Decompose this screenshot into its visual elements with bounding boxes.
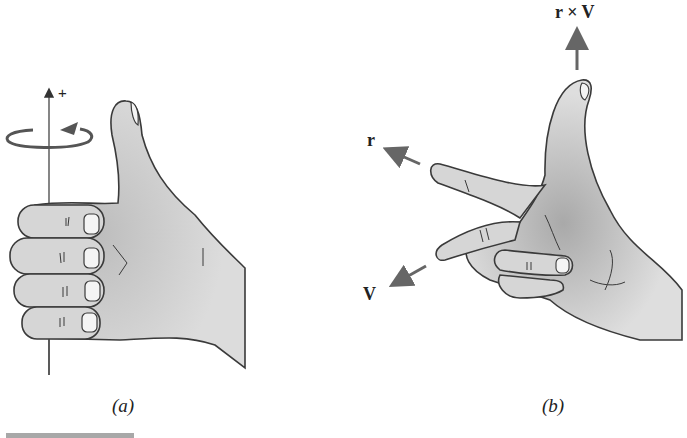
footer-bar bbox=[6, 433, 134, 438]
r-arrow-icon bbox=[388, 150, 420, 164]
right-hand-rule-figure bbox=[0, 0, 687, 438]
r-cross-v-label: r × V bbox=[555, 2, 595, 23]
panel-a-hand bbox=[7, 90, 245, 375]
panel-b-hand bbox=[388, 32, 682, 340]
axis-plus-label: + bbox=[58, 84, 67, 101]
r-label: r bbox=[367, 130, 375, 151]
caption-a: (a) bbox=[112, 395, 134, 417]
v-arrow-icon bbox=[394, 266, 426, 284]
caption-b: (b) bbox=[542, 395, 564, 417]
v-label: V bbox=[363, 284, 376, 305]
